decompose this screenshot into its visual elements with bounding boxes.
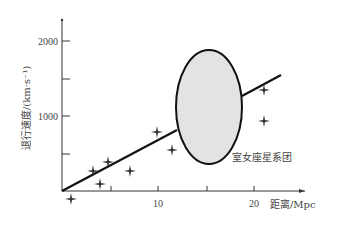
cluster-label: 室女座星系团 [232, 151, 292, 163]
virgo-cluster-ellipse [176, 50, 242, 164]
star-icon [124, 165, 136, 177]
star-icon [94, 178, 106, 190]
xtick-10: 10 [153, 198, 163, 209]
xtick-20: 20 [249, 198, 259, 209]
star-icon [65, 193, 77, 205]
star-icon [258, 115, 270, 127]
star-icon [166, 144, 178, 156]
star-icon [151, 126, 163, 138]
x-axis-label: 距离/Mpc [270, 198, 316, 210]
star-icon [102, 156, 114, 168]
fit-line [62, 130, 177, 191]
star-icon [87, 165, 99, 177]
hubble-chart: 2000 1000 10 20 距离/Mpc 退行速度/(km·s⁻¹) 室女座… [0, 0, 337, 226]
y-axis-label: 退行速度/(km·s⁻¹) [20, 66, 32, 150]
ytick-1000: 1000 [38, 111, 58, 122]
ytick-2000: 2000 [38, 36, 58, 47]
fit-line-continued [242, 75, 281, 96]
x-axis-arrow-icon [299, 189, 305, 193]
